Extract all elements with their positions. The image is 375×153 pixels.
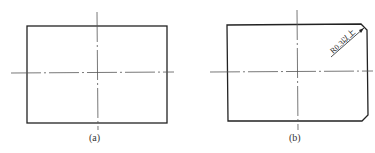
diagram-canvas: (a) R0.3以上 (b) (0, 0, 375, 153)
figure-b-horizontal-centerline (210, 71, 373, 72)
radius-annotation: R0.3以上 (328, 28, 357, 56)
figure-a-vertical-centerline (97, 12, 98, 130)
figure-b (210, 10, 373, 130)
figure-a-horizontal-centerline (11, 72, 174, 73)
figure-a-caption: (a) (89, 132, 100, 144)
figure-b-vertical-centerline (297, 10, 298, 130)
figure-b-caption: (b) (289, 132, 301, 144)
figure-a (11, 12, 174, 130)
